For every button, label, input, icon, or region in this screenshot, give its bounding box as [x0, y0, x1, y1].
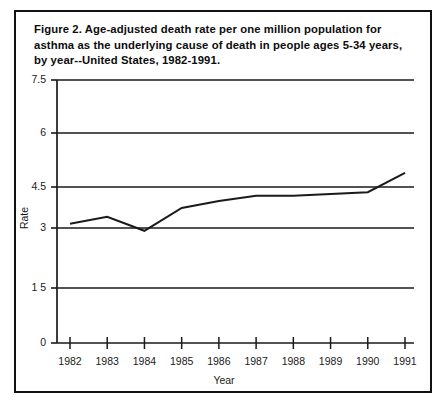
caption-line-1: Figure 2. Age-adjusted death rate per on… [34, 22, 414, 38]
caption-line-2: asthma as the underlying cause of death … [34, 38, 414, 54]
figure-caption: Figure 2. Age-adjusted death rate per on… [34, 22, 414, 69]
figure-frame: Figure 2. Age-adjusted death rate per on… [14, 10, 432, 393]
caption-line-3: by year--United States, 1982-1991. [34, 53, 414, 69]
